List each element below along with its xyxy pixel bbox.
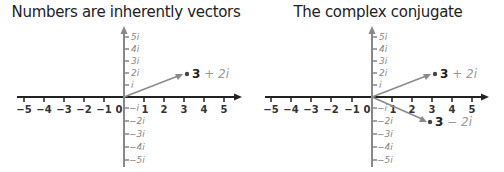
x-tick-label: 1 [142, 104, 149, 115]
x-tick-label: 3 [429, 104, 436, 115]
point-dot [185, 72, 189, 76]
y-tick-label: 3i [379, 56, 388, 66]
x-tick-label: −5 [16, 104, 31, 115]
x-tick-label: −4 [36, 104, 51, 115]
real-axis-arrow-icon [234, 94, 242, 101]
x-tick-label: −2 [76, 104, 91, 115]
x-tick-label: −3 [303, 104, 318, 115]
panel-vectors: Numbers are inherently vectors −5 −4 −3 [0, 0, 252, 172]
y-tick-label: −5i [129, 155, 145, 165]
y-tick-label: −i [129, 103, 140, 113]
x-tick-label: 2 [161, 104, 168, 115]
point-label: 3 + 2i [440, 67, 478, 81]
x-tick-label: 5 [469, 104, 476, 115]
y-tick-label: 5i [379, 32, 388, 42]
y-tick-label: 4i [131, 44, 140, 54]
real-axis-arrow-icon [481, 94, 489, 101]
y-tick-label: −4i [377, 142, 393, 152]
y-tick-label: 5i [131, 32, 140, 42]
y-tick-label: −i [377, 103, 388, 113]
x-tick-label: −5 [263, 104, 278, 115]
x-tick-label: −1 [96, 104, 111, 115]
imaginary-axis-arrow-icon [369, 26, 376, 34]
y-tick-label: 4i [379, 44, 388, 54]
point-dot [428, 120, 432, 124]
x-tick-label: 3 [181, 104, 188, 115]
y-tick-label: −4i [129, 142, 145, 152]
x-tick-label: 0 [364, 104, 371, 115]
y-tick-label: −2i [377, 116, 393, 126]
point-label: 3 − 2i [435, 115, 473, 129]
x-tick-label: −4 [283, 104, 298, 115]
complex-plane: −5 −4 −3 −2 −1 0 1 2 3 4 5 5i 4i 3i 2i i… [252, 0, 504, 172]
y-tick-label: 3i [131, 56, 140, 66]
x-tick-label: 4 [201, 104, 208, 115]
y-tick-label: −3i [377, 129, 393, 139]
x-tick-label: 4 [449, 104, 456, 115]
point-label: 3 + 2i [192, 67, 230, 81]
y-tick-label: −5i [377, 155, 393, 165]
panel-conjugate: The complex conjugate −5 −4 −3 −2 −1 0 1 [252, 0, 504, 172]
x-tick-label: 5 [221, 104, 228, 115]
y-tick-label: −3i [129, 129, 145, 139]
y-tick-label: 2i [131, 68, 140, 78]
y-tick-label: −2i [129, 116, 145, 126]
y-tick-label: i [131, 80, 134, 90]
y-tick-label: i [379, 80, 382, 90]
x-tick-label: −2 [323, 104, 338, 115]
point-dot [433, 72, 437, 76]
y-tick-label: 2i [379, 68, 388, 78]
x-tick-label: −1 [344, 104, 359, 115]
complex-plane: −5 −4 −3 −2 −1 0 1 2 3 4 5 5i 4i 3i 2i i… [0, 0, 252, 172]
x-tick-label: −3 [56, 104, 71, 115]
imaginary-axis-arrow-icon [121, 26, 128, 34]
x-tick-label: 0 [116, 104, 123, 115]
